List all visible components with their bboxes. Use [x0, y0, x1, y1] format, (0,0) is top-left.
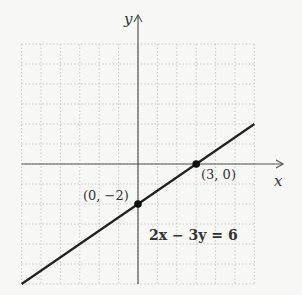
- coordinate-plane: y x (0, −2) (3, 0) 2x − 3y = 6: [0, 0, 302, 295]
- graph-figure: y x (0, −2) (3, 0) 2x − 3y = 6: [0, 0, 302, 295]
- point-marker: [192, 160, 200, 168]
- point-label-x-intercept: (3, 0): [201, 167, 236, 182]
- y-axis-label: y: [123, 10, 133, 28]
- equation-label: 2x − 3y = 6: [149, 227, 238, 243]
- point-marker: [134, 200, 142, 208]
- point-label-y-intercept: (0, −2): [83, 188, 129, 203]
- x-axis-label: x: [274, 172, 283, 190]
